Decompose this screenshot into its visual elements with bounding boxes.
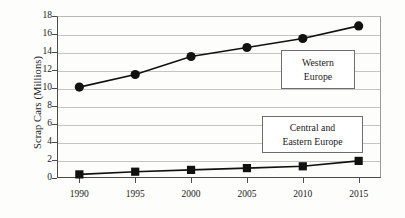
x-axis-tick-label: 2010 <box>280 190 326 200</box>
y-axis-tick-mark <box>52 34 57 35</box>
annotation-western-europe: WesternEurope <box>281 50 355 89</box>
y-axis-tick-label: 10 <box>30 83 52 93</box>
y-axis-tick-mark <box>52 178 57 179</box>
annotation-line: Europe <box>302 70 334 84</box>
y-axis-tick-label: 18 <box>30 11 52 21</box>
x-axis-tick-mark <box>135 178 136 183</box>
x-axis-tick-label: 2000 <box>168 190 214 200</box>
annotation-text: Central andEastern Europe <box>282 121 342 148</box>
y-axis-tick-mark <box>52 16 57 17</box>
x-axis-tick-label: 2015 <box>336 190 382 200</box>
x-axis-tick-mark <box>79 178 80 183</box>
gridline <box>58 89 380 90</box>
y-axis-tick-mark <box>52 106 57 107</box>
y-axis-tick-mark <box>52 124 57 125</box>
x-axis-tick-mark <box>191 178 192 183</box>
y-axis-tick-mark <box>52 70 57 71</box>
plot-area <box>57 16 381 178</box>
y-axis-tick-label: 6 <box>30 119 52 129</box>
x-axis-tick-mark <box>247 178 248 183</box>
x-axis-tick-mark <box>303 178 304 183</box>
annotation-line: Western <box>302 56 334 70</box>
y-axis-tick-label: 16 <box>30 29 52 39</box>
annotation-line: Eastern Europe <box>282 135 342 149</box>
y-axis-tick-label: 4 <box>30 137 52 147</box>
x-axis-tick-mark <box>359 178 360 183</box>
x-axis-tick-label: 2005 <box>224 190 270 200</box>
y-axis-tick-label: 2 <box>30 155 52 165</box>
x-axis-tick-label: 1995 <box>112 190 158 200</box>
y-axis-tick-label: 8 <box>30 101 52 111</box>
x-axis-tick-label: 1990 <box>56 190 102 200</box>
y-axis-tick-label: 0 <box>30 173 52 183</box>
y-axis-tick-mark <box>52 52 57 53</box>
gridline <box>58 161 380 162</box>
y-axis-tick-mark <box>52 88 57 89</box>
gridline <box>58 35 380 36</box>
y-axis-tick-mark <box>52 142 57 143</box>
gridline <box>58 107 380 108</box>
y-axis-tick-mark <box>52 160 57 161</box>
annotation-text: WesternEurope <box>302 56 334 83</box>
scrap-cars-line-chart: Scrap Cars (Millions) 024681012141618199… <box>0 0 405 218</box>
y-axis-tick-label: 12 <box>30 65 52 75</box>
annotation-line: Central and <box>282 121 342 135</box>
annotation-central-eastern-europe: Central andEastern Europe <box>262 116 363 153</box>
y-axis-tick-label: 14 <box>30 47 52 57</box>
